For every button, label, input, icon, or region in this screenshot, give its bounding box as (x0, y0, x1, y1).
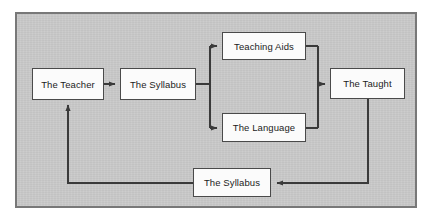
node-the-syllabus-top[interactable]: The Syllabus (120, 68, 196, 100)
node-the-syllabus-top-label: The Syllabus (130, 79, 186, 90)
node-the-syllabus-bottom[interactable]: The Syllabus (193, 168, 271, 197)
node-teaching-aids[interactable]: Teaching Aids (222, 32, 306, 60)
node-the-language-label: The Language (233, 122, 295, 133)
diagram-canvas: The Teacher The Syllabus Teaching Aids T… (0, 0, 432, 222)
node-the-teacher[interactable]: The Teacher (32, 68, 104, 100)
node-the-taught-label: The Taught (343, 78, 391, 89)
node-the-syllabus-bottom-label: The Syllabus (204, 177, 260, 188)
node-the-taught[interactable]: The Taught (330, 68, 405, 99)
node-the-teacher-label: The Teacher (41, 79, 95, 90)
node-teaching-aids-label: Teaching Aids (234, 41, 294, 52)
node-the-language[interactable]: The Language (222, 113, 306, 142)
